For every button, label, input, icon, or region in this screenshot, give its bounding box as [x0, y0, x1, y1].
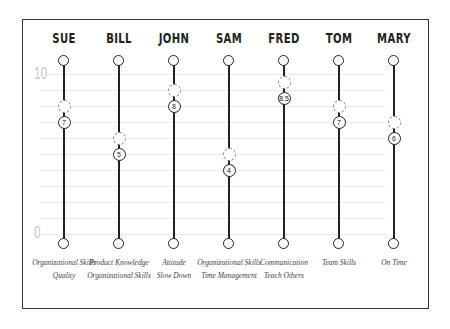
skill-label: On Time [359, 258, 429, 267]
top-end-circle-icon [278, 55, 289, 66]
scale-bottom-label: 0 [34, 223, 41, 243]
top-end-circle-icon [388, 55, 399, 66]
score-marker: 4 [223, 164, 236, 177]
gridline [40, 234, 385, 235]
bottom-end-circle-icon [58, 238, 69, 249]
bottom-end-circle-icon [278, 238, 289, 249]
target-marker-icon [388, 116, 401, 129]
target-marker-icon [278, 76, 291, 89]
gridline [40, 218, 385, 219]
score-marker: 7 [58, 116, 71, 129]
scale-line [393, 61, 395, 244]
top-end-circle-icon [58, 55, 69, 66]
bottom-end-circle-icon [223, 238, 234, 249]
top-end-circle-icon [223, 55, 234, 66]
target-marker-icon [168, 84, 181, 97]
target-marker-icon [58, 100, 71, 113]
top-end-circle-icon [333, 55, 344, 66]
target-marker-icon [333, 100, 346, 113]
gridline [40, 202, 385, 203]
person-name: TOM [317, 30, 360, 46]
gridline [40, 154, 385, 155]
skill-labels: On Time [359, 258, 429, 271]
score-marker: 8 [168, 100, 181, 113]
scale-line [63, 61, 65, 244]
score-marker: 8.5 [278, 92, 291, 105]
person-name: FRED [262, 30, 305, 46]
score-marker: 7 [333, 116, 346, 129]
person-name: SAM [207, 30, 250, 46]
person-name: MARY [372, 30, 415, 46]
bottom-end-circle-icon [168, 238, 179, 249]
person-name: SUE [42, 30, 85, 46]
gridline [40, 90, 385, 91]
top-end-circle-icon [113, 55, 124, 66]
scale-top-label: 10 [34, 64, 47, 84]
gridline [40, 138, 385, 139]
bottom-end-circle-icon [333, 238, 344, 249]
gridline [40, 186, 385, 187]
bottom-end-circle-icon [388, 238, 399, 249]
person-name: BILL [97, 30, 140, 46]
target-marker-icon [113, 132, 126, 145]
score-marker: 6 [388, 132, 401, 145]
gridline [40, 74, 385, 75]
skill-label: Teach Others [249, 271, 319, 280]
target-marker-icon [223, 148, 236, 161]
score-marker: 5 [113, 148, 126, 161]
top-end-circle-icon [168, 55, 179, 66]
person-name: JOHN [152, 30, 195, 46]
scale-line [338, 61, 340, 244]
gridline [40, 170, 385, 171]
bottom-end-circle-icon [113, 238, 124, 249]
